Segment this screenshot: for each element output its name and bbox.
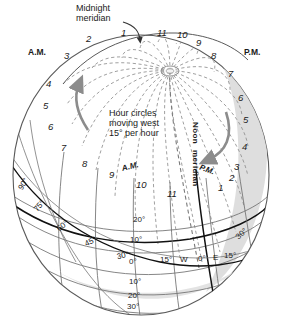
hour-number-lower: 2 [229,173,234,184]
noon-meridian-word-noon: Noon [191,122,200,144]
latitude-degree-label: 10° [129,278,141,287]
latitude-degree-label: 0° [129,258,137,267]
hour-circles-note-line2: moving west [109,118,159,128]
latitude-degree-label: 30° [127,303,139,312]
noon-meridian-label: Noon [190,122,199,144]
hour-number-left: 5 [43,101,48,112]
hour-number-left: 4 [46,79,51,90]
hour-circles-note-line1: Hour circles [109,108,159,118]
latitude-degree-label: 20° [128,292,140,301]
hour-number-lower: 10 [136,180,147,191]
hour-number-right: 8 [211,51,216,62]
hour-number-top: 9 [196,38,201,49]
hour-number-top: 11 [157,28,167,39]
hour-number-left: 3 [64,51,69,62]
latitude-degree-label: 10° [130,236,142,245]
noon-meridian-label-2: meridian [190,150,199,187]
diagram-canvas: Midnight meridian Hour circles moving we… [0,0,283,316]
hour-number-lower: 1 [218,183,223,194]
hour-number-right: 4 [242,142,247,153]
hour-circles-note: Hour circles moving west 15° per hour [109,108,159,138]
am-label-upper: A.M. [28,48,46,58]
longitude-degree-label: E [213,254,218,263]
hour-number-right: 3 [234,162,239,173]
hour-number-left: 8 [82,159,87,170]
hour-number-right: 7 [228,69,233,80]
hour-number-left: 6 [48,122,53,133]
longitude-degree-label: 15° [224,252,236,261]
hour-number-top: 2 [86,34,91,45]
hour-number-top: 1 [121,28,126,39]
longitude-degree-label: W [180,256,188,265]
hour-number-right: 6 [238,93,243,104]
pm-label-upper: P.M. [244,48,260,58]
midnight-meridian-label: Midnight meridian [76,3,111,23]
latitude-degree-label: 20° [133,216,145,225]
hour-number-right: 5 [243,115,248,126]
longitude-degree-label: 0° [198,255,206,264]
hour-number-lower: 11 [167,189,177,200]
longitude-degree-label: 15° [160,256,172,265]
hour-number-lower: 9 [109,170,114,181]
midnight-meridian-line2: meridian [76,13,111,23]
hour-number-top: 10 [177,30,188,41]
hour-number-left: 7 [61,143,66,154]
hour-circles-note-line3: 15° per hour [109,128,159,138]
midnight-meridian-line1: Midnight [76,3,111,13]
